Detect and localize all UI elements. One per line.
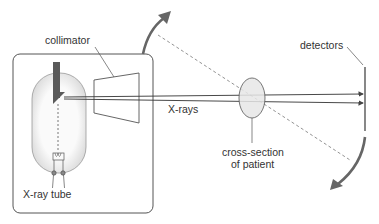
cross-section-label-line1: cross-section bbox=[222, 146, 284, 158]
cross-section-label-line2: of patient bbox=[231, 158, 274, 170]
ct-scanner-diagram: collimator X-rays detectors cross-sectio… bbox=[0, 0, 379, 224]
patient-cross-section bbox=[239, 78, 265, 118]
xray-tube-label: X-ray tube bbox=[23, 188, 72, 200]
collimator-label: collimator bbox=[45, 34, 90, 46]
detectors-leader bbox=[347, 47, 363, 65]
xrays-label: X-rays bbox=[168, 103, 198, 115]
detectors-label: detectors bbox=[300, 39, 343, 51]
rotation-arrow-top-icon bbox=[143, 11, 171, 54]
rotation-arrow-bottom-icon bbox=[330, 137, 365, 190]
